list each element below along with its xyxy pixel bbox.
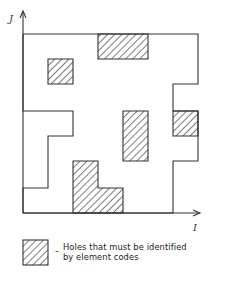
j-axis-label: J <box>7 13 14 24</box>
hole-diagram: J I <box>0 0 235 281</box>
legend-line-2: by element codes <box>63 252 187 262</box>
hole-center <box>123 111 148 161</box>
hole-right <box>173 111 198 136</box>
hole-upper-left <box>48 59 73 84</box>
legend-line-1: Holes that must be identified <box>63 242 187 252</box>
hole-top <box>98 34 148 59</box>
legend-text: Holes that must be identified by element… <box>63 242 187 262</box>
hole-bottom-l <box>73 161 123 213</box>
legend-dash: – <box>55 247 59 256</box>
i-axis-label: I <box>192 222 198 233</box>
legend-swatch <box>23 240 48 265</box>
